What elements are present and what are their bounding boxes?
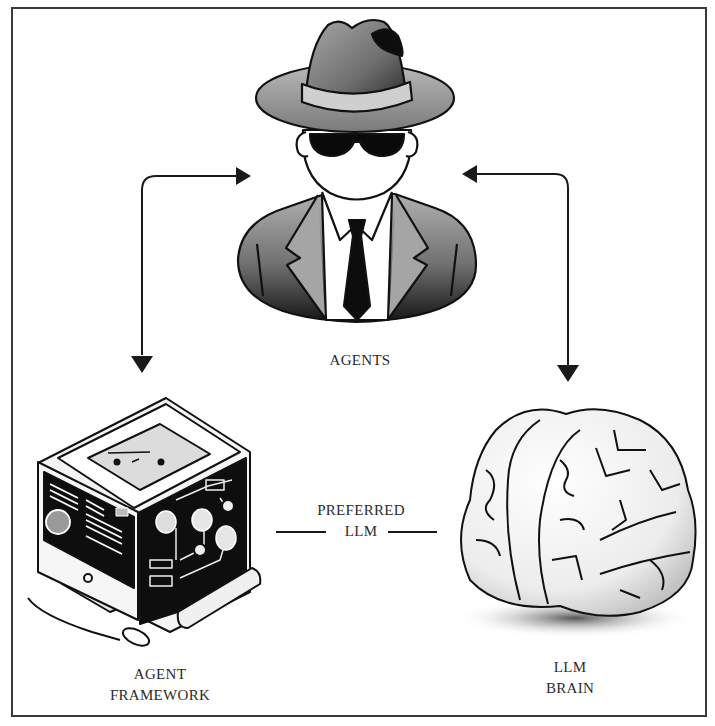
- spy-agent-icon: [238, 20, 476, 322]
- llm-brain-label: LLM BRAIN: [520, 657, 620, 699]
- agent-framework-label-line: FRAMEWORK: [80, 685, 240, 706]
- llm-brain-label-line: BRAIN: [520, 678, 620, 699]
- arrow-agents-framework: [142, 176, 236, 355]
- agents-label-line: AGENTS: [300, 350, 420, 371]
- agent-framework-label-line: AGENT: [80, 664, 240, 685]
- agents-label: AGENTS: [300, 350, 420, 371]
- arrowhead-down-icon: [131, 356, 153, 373]
- arrowhead-left-icon: [462, 165, 477, 183]
- preferred-llm-label-line: PREFERRED: [296, 500, 426, 521]
- arrow-agents-brain: [477, 174, 568, 366]
- arrowhead-down-icon: [557, 365, 579, 382]
- brain-icon: [455, 409, 696, 638]
- arrowhead-right-icon: [236, 167, 251, 185]
- llm-brain-label-line: LLM: [520, 657, 620, 678]
- agent-framework-label: AGENT FRAMEWORK: [80, 664, 240, 706]
- preferred-llm-label: PREFERRED LLM: [296, 500, 426, 542]
- preferred-llm-label-line: LLM: [296, 521, 426, 542]
- computer-framework-icon: [28, 398, 260, 649]
